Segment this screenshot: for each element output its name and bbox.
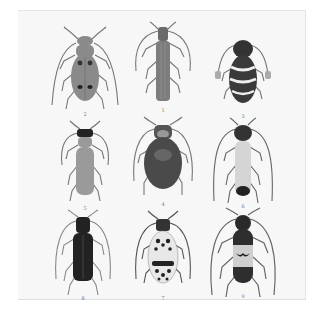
figure-beetle-pale: 6 [198, 117, 288, 209]
figure-beetle-bicolor: 9 [198, 207, 288, 299]
figure-beetle-slender: 1 [118, 21, 208, 113]
figure-beetle-banded: 3 [198, 27, 288, 119]
beetle-black-icon [38, 209, 128, 301]
beetle-pale-icon [198, 117, 288, 209]
beetle-illustration-plate: 2 1 [18, 10, 306, 300]
beetle-spotted-icon [40, 25, 130, 117]
beetle-bicolor-icon [198, 207, 288, 299]
beetle-slim-tan-icon [40, 119, 130, 211]
beetle-banded-icon [198, 27, 288, 119]
figure-label: 2 [40, 111, 130, 117]
figure-label: 1 [118, 107, 208, 113]
figure-label: 7 [118, 295, 208, 301]
figure-beetle-broad: 4 [118, 115, 208, 207]
beetle-broad-icon [118, 115, 208, 207]
beetle-slender-icon [118, 21, 208, 113]
figure-label: 4 [118, 201, 208, 207]
figure-beetle-spotted: 2 [40, 25, 130, 117]
figure-label: 8 [38, 295, 128, 301]
beetle-mottled-icon [118, 209, 208, 301]
figure-beetle-black: 8 [38, 209, 128, 301]
figure-label: 9 [198, 293, 288, 299]
figure-beetle-mottled: 7 [118, 209, 208, 301]
figure-beetle-slim-tan: 5 [40, 119, 130, 211]
